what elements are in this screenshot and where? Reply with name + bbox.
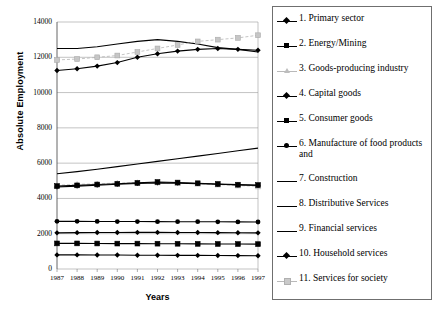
y-tick-label: 2000 xyxy=(18,229,52,238)
y-tick-label: 4000 xyxy=(18,193,52,202)
legend-marker-icon xyxy=(277,250,297,262)
legend-marker-icon xyxy=(277,15,297,27)
y-tick-label: 8000 xyxy=(18,123,52,132)
chart-screenshot: Absolute Employment Years 02000400060008… xyxy=(0,0,437,312)
plot-area: Absolute Employment Years 02000400060008… xyxy=(0,0,272,312)
legend-marker-icon xyxy=(277,275,297,287)
legend-marker-icon xyxy=(277,200,297,212)
chart-legend: 1. Primary sector2. Energy/Mining3. Good… xyxy=(272,6,432,300)
y-tick-label: 14000 xyxy=(18,17,52,26)
legend-marker-icon xyxy=(277,225,297,237)
legend-marker-icon xyxy=(277,175,297,187)
legend-marker-icon xyxy=(277,115,297,127)
legend-label-4: 4. Capital goods xyxy=(297,88,361,99)
legend-label-3: 3. Goods-producing industry xyxy=(297,63,409,74)
legend-item-7[interactable]: 7. Construction xyxy=(277,173,428,198)
legend-label-5: 5. Consumer goods xyxy=(297,113,373,124)
legend-label-9: 9. Financial services xyxy=(297,223,377,234)
legend-item-9[interactable]: 9. Financial services xyxy=(277,223,428,248)
legend-item-6[interactable]: 6. Manufacture of food products and xyxy=(277,138,428,173)
x-tick-label: 1997 xyxy=(246,274,270,282)
series-line-9 xyxy=(57,148,258,174)
legend-label-8: 8. Distributive Services xyxy=(297,198,388,209)
legend-label-7: 7. Construction xyxy=(297,173,358,184)
legend-item-5[interactable]: 5. Consumer goods xyxy=(277,113,428,138)
legend-item-2[interactable]: 2. Energy/Mining xyxy=(277,38,428,63)
legend-marker-icon xyxy=(277,65,297,77)
y-tick-label: 12000 xyxy=(18,52,52,61)
y-tick-label: 10000 xyxy=(18,88,52,97)
legend-item-8[interactable]: 8. Distributive Services xyxy=(277,198,428,223)
x-axis-title: Years xyxy=(57,292,258,302)
legend-label-10: 10. Household services xyxy=(297,248,387,259)
legend-label-6: 6. Manufacture of food products and xyxy=(297,138,428,160)
legend-marker-icon xyxy=(277,40,297,52)
y-axis-title: Absolute Employment xyxy=(15,21,25,181)
legend-item-10[interactable]: 10. Household services xyxy=(277,248,428,273)
legend-label-1: 1. Primary sector xyxy=(297,13,364,24)
legend-label-11: 11. Services for society xyxy=(297,273,388,284)
legend-label-2: 2. Energy/Mining xyxy=(297,38,366,49)
legend-item-1[interactable]: 1. Primary sector xyxy=(277,13,428,38)
legend-item-3[interactable]: 3. Goods-producing industry xyxy=(277,63,428,88)
legend-marker-icon xyxy=(277,140,297,152)
y-tick-label: 0 xyxy=(18,264,52,273)
legend-item-4[interactable]: 4. Capital goods xyxy=(277,88,428,113)
legend-marker-icon xyxy=(277,90,297,102)
legend-item-11[interactable]: 11. Services for society xyxy=(277,273,428,298)
y-tick-label: 6000 xyxy=(18,158,52,167)
